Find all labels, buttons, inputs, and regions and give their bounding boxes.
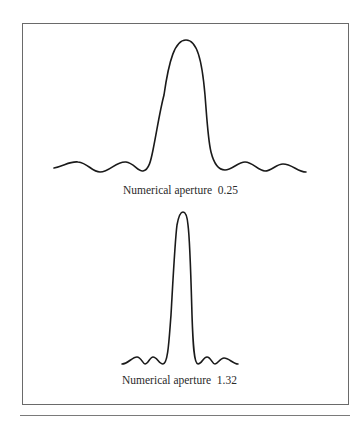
horizontal-rule — [20, 415, 350, 416]
profile-curve-na-1-32 — [122, 212, 238, 364]
profile-curve-na-0-25 — [54, 40, 306, 172]
intensity-profiles — [0, 0, 363, 425]
caption-na-0-25: Numerical aperture 0.25 — [123, 184, 238, 196]
caption-na-1-32: Numerical aperture 1.32 — [122, 374, 237, 386]
